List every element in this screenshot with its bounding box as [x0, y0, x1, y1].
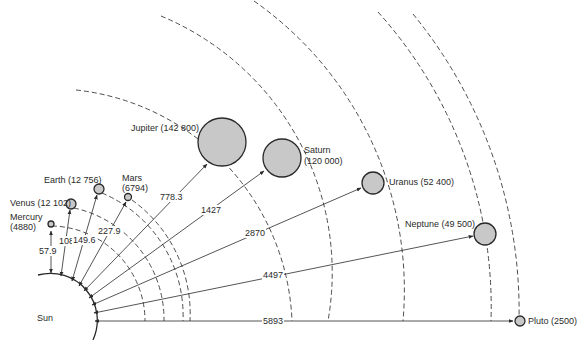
planet-saturn [263, 139, 301, 177]
planet-jupiter [198, 118, 246, 166]
planet-label-venus: Venus (12 102) [10, 198, 71, 208]
orbit-saturn [161, 16, 332, 321]
solar-system-diagram [0, 0, 587, 340]
sun-arc [38, 273, 97, 340]
planet-label-saturn: Saturn [304, 145, 331, 155]
planet-label-neptune: Neptune (49 500) [405, 219, 475, 229]
planet-label-earth: Earth (12 756) [44, 175, 102, 185]
distance-jupiter: 778.3 [159, 192, 184, 202]
planet-mars [125, 194, 132, 201]
planet-uranus [362, 172, 384, 194]
arrow-uranus [92, 188, 361, 305]
planet-label-uranus: Uranus (52 400) [389, 177, 454, 187]
orbit-earth [102, 193, 183, 321]
planet-diameter-saturn: (120 000) [304, 156, 343, 166]
planet-earth [94, 184, 104, 194]
distance-pluto: 5893 [262, 316, 284, 326]
planet-pluto [515, 316, 525, 326]
distance-uranus: 2870 [244, 228, 266, 238]
distance-neptune: 4497 [262, 270, 284, 280]
planet-mercury [48, 221, 54, 227]
orbit-venus [74, 208, 164, 321]
orbit-neptune [378, 12, 491, 321]
planet-label-mercury: Mercury [10, 212, 43, 222]
planet-label-pluto: Pluto (2500) [528, 316, 577, 326]
distance-earth: 149.6 [72, 235, 97, 245]
planet-label-mars: Mars [122, 173, 142, 183]
sun-label: Sun [37, 313, 53, 323]
distance-saturn: 1427 [200, 205, 222, 215]
planet-diameter-mercury: (4880) [10, 222, 36, 232]
distance-arrows [51, 164, 513, 321]
orbit-pluto [413, 14, 519, 321]
distance-mars: 227.9 [97, 226, 122, 236]
distance-mercury: 57.9 [38, 246, 58, 256]
planet-label-jupiter: Jupiter (142 800) [131, 123, 199, 133]
planet-diameter-mars: (6794) [122, 183, 148, 193]
planet-neptune [474, 223, 496, 245]
